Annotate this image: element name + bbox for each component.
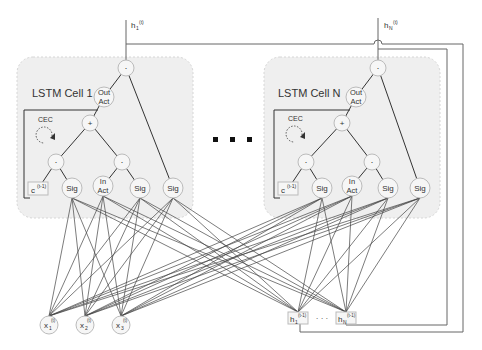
svg-text:(t): (t)	[51, 318, 56, 323]
svg-text:Act: Act	[98, 186, 110, 195]
svg-text:·: ·	[55, 157, 58, 167]
svg-text:Act: Act	[347, 186, 359, 195]
svg-text:(t): (t)	[87, 318, 92, 323]
svg-text:Sig: Sig	[66, 184, 78, 193]
svg-text:(t-1): (t-1)	[347, 313, 356, 318]
recurrent-ellipsis: · · ·	[316, 314, 328, 323]
svg-text:N: N	[389, 25, 393, 31]
svg-text:+: +	[88, 119, 93, 128]
svg-text:Sig: Sig	[414, 184, 426, 193]
svg-text:x: x	[80, 321, 84, 330]
cell-1-title: LSTM Cell 1	[32, 87, 93, 99]
cec-label: CEC	[38, 116, 53, 123]
svg-text:Sig: Sig	[316, 184, 328, 193]
svg-text:h: h	[290, 315, 294, 324]
svg-text:+: +	[340, 119, 345, 128]
svg-text:(t): (t)	[123, 318, 128, 323]
svg-text:·: ·	[121, 157, 124, 167]
svg-text:Out: Out	[98, 88, 111, 97]
svg-text:2: 2	[85, 325, 88, 331]
cell-n-title: LSTM Cell N	[278, 87, 340, 99]
svg-text:Out: Out	[350, 88, 363, 97]
svg-text:x: x	[116, 321, 120, 330]
svg-text:In: In	[349, 177, 355, 186]
svg-text:1: 1	[295, 319, 298, 325]
svg-text:Act: Act	[351, 97, 363, 106]
svg-text:·: ·	[125, 63, 128, 73]
svg-text:In: In	[100, 177, 106, 186]
lstm-diagram: · Out Act + · · c (t-1) Sig In Act Sig S…	[0, 0, 482, 350]
svg-text:Sig: Sig	[382, 184, 394, 193]
svg-text:(t-1): (t-1)	[298, 313, 307, 318]
h1-output-label: h	[131, 21, 135, 30]
svg-text:·: ·	[371, 157, 374, 167]
svg-text:(t-1): (t-1)	[287, 183, 297, 189]
svg-text:N: N	[343, 319, 347, 325]
svg-text:Sig: Sig	[167, 184, 179, 193]
svg-text:1: 1	[49, 325, 52, 331]
cec-label: CEC	[288, 115, 303, 122]
svg-text:Sig: Sig	[134, 184, 146, 193]
svg-text:Act: Act	[99, 97, 111, 106]
svg-text:x: x	[44, 321, 48, 330]
svg-text:1: 1	[136, 25, 139, 31]
input-nodes: x 1 (t) x 2 (t) x 3 (t)	[40, 316, 130, 334]
recurrent-inputs: h 1 (t-1) · · · h N (t-1)	[288, 312, 356, 325]
svg-text:3: 3	[121, 325, 124, 331]
hn-output-label: h	[384, 21, 388, 30]
svg-text:·: ·	[305, 157, 308, 167]
svg-text:(t): (t)	[393, 19, 398, 25]
svg-text:c: c	[31, 186, 35, 195]
svg-text:(t): (t)	[139, 19, 144, 25]
svg-text:h: h	[338, 315, 342, 324]
svg-text:c: c	[281, 186, 285, 195]
svg-text:(t-1): (t-1)	[37, 183, 47, 189]
cells-ellipsis	[213, 137, 252, 142]
svg-text:·: ·	[377, 63, 380, 73]
